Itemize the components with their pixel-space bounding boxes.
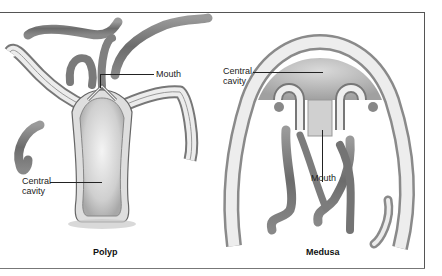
polyp-mouth-leader-vertical <box>100 74 101 88</box>
cnidarian-illustration <box>0 0 442 276</box>
polyp-cavity-label-line1: Central <box>22 176 51 186</box>
medusa-cavity-label-line2: cavity <box>223 76 246 86</box>
medusa-mouth-label: Mouth <box>311 173 336 183</box>
polyp-cavity-label-line2: cavity <box>22 186 45 196</box>
polyp-cavity-leader <box>50 182 102 183</box>
medusa-cavity-leader <box>253 72 323 73</box>
polyp-caption: Polyp <box>93 247 118 257</box>
medusa-caption: Medusa <box>306 247 340 257</box>
polyp-mouth-label: Mouth <box>156 69 181 79</box>
polyp-mouth-leader <box>100 74 154 75</box>
polyp-drawing <box>10 18 208 229</box>
medusa-cavity-label-line1: Central <box>223 66 252 76</box>
